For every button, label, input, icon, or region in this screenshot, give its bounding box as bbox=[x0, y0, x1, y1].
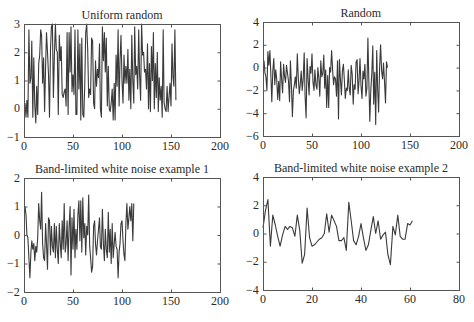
y-tick-label: 1 bbox=[14, 199, 20, 214]
x-tick-label: 150 bbox=[162, 139, 180, 154]
x-tick-label: 200 bbox=[211, 294, 229, 309]
x-tick-label: 100 bbox=[113, 139, 131, 154]
data-line bbox=[25, 24, 176, 123]
x-tick-label: 50 bbox=[67, 294, 79, 309]
data-line bbox=[264, 38, 388, 125]
x-tick-label: 50 bbox=[67, 139, 79, 154]
y-tick-label: 3 bbox=[14, 17, 20, 32]
subplot-title: Band-limited white noise example 1 bbox=[35, 162, 209, 177]
x-tick-label: 0 bbox=[21, 294, 27, 309]
x-tick-label: 40 bbox=[355, 292, 367, 307]
x-tick-label: 150 bbox=[401, 138, 419, 153]
subplot-title: Random bbox=[341, 6, 382, 21]
subplot-3 bbox=[25, 179, 221, 293]
x-tick-label: 80 bbox=[453, 292, 465, 307]
y-tick-label: 2 bbox=[14, 45, 20, 60]
y-tick-label: −1 bbox=[7, 256, 20, 271]
subplot-title: Band-limited white noise example 2 bbox=[274, 161, 448, 176]
data-line bbox=[263, 200, 412, 265]
x-tick-label: 20 bbox=[306, 292, 318, 307]
y-tick-label: 4 bbox=[253, 15, 259, 30]
y-tick-label: −1 bbox=[7, 130, 20, 145]
x-tick-label: 0 bbox=[260, 138, 266, 153]
x-tick-label: 100 bbox=[352, 138, 370, 153]
y-tick-label: 0 bbox=[253, 60, 259, 75]
x-tick-label: 0 bbox=[21, 139, 27, 154]
y-tick-label: −2 bbox=[246, 254, 259, 269]
y-tick-label: 0 bbox=[253, 226, 259, 241]
y-tick-label: 0 bbox=[14, 228, 20, 243]
x-tick-label: 150 bbox=[162, 294, 180, 309]
axes-box bbox=[264, 178, 460, 291]
y-tick-label: 2 bbox=[253, 198, 259, 213]
subplot-4 bbox=[263, 178, 460, 291]
y-tick-label: 2 bbox=[253, 37, 259, 52]
x-tick-label: 0 bbox=[260, 292, 266, 307]
y-tick-label: 4 bbox=[253, 170, 259, 185]
y-tick-label: 1 bbox=[14, 73, 20, 88]
y-tick-label: −2 bbox=[7, 285, 20, 300]
x-tick-label: 200 bbox=[450, 138, 468, 153]
y-tick-label: −4 bbox=[246, 106, 259, 121]
x-tick-label: 60 bbox=[404, 292, 416, 307]
data-line bbox=[25, 192, 134, 277]
x-tick-label: 200 bbox=[211, 139, 229, 154]
x-tick-label: 50 bbox=[306, 138, 318, 153]
y-tick-label: −4 bbox=[246, 283, 259, 298]
y-tick-label: 2 bbox=[14, 171, 20, 186]
y-tick-label: −6 bbox=[246, 129, 259, 144]
subplot-title: Uniform random bbox=[82, 8, 163, 23]
subplot-1 bbox=[25, 24, 221, 138]
axes-box bbox=[264, 23, 460, 137]
y-tick-label: 0 bbox=[14, 101, 20, 116]
y-tick-label: −2 bbox=[246, 83, 259, 98]
x-tick-label: 100 bbox=[113, 294, 131, 309]
subplot-2 bbox=[264, 23, 460, 137]
